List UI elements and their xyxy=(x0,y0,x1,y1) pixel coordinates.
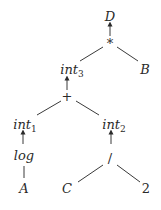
edge-mul-B xyxy=(117,47,138,61)
node-int3-subscript: 3 xyxy=(78,69,84,79)
node-multiply: * xyxy=(107,36,114,51)
node-D: D xyxy=(104,9,116,24)
node-int1-label: int xyxy=(13,117,32,132)
node-int2-label: int xyxy=(102,117,121,132)
node-B: B xyxy=(139,62,150,77)
node-two: 2 xyxy=(142,181,150,196)
expression-tree-diagram: D * int3 B + int1 int2 log / A C 2 xyxy=(0,0,161,210)
edge-plus-int2 xyxy=(76,101,99,115)
edge-div-two xyxy=(117,165,140,182)
node-int3: int3 xyxy=(60,62,84,79)
node-int1: int1 xyxy=(13,117,37,134)
nodes: D * int3 B + int1 int2 log / A C 2 xyxy=(13,9,150,196)
node-int3-label: int xyxy=(60,62,79,77)
node-C: C xyxy=(62,181,72,196)
node-plus: + xyxy=(62,89,73,104)
node-A: A xyxy=(18,181,28,196)
node-int2-subscript: 2 xyxy=(120,124,126,134)
node-int2: int2 xyxy=(102,117,126,134)
edge-plus-int1 xyxy=(37,101,61,115)
edge-div-C xyxy=(78,165,103,182)
edge-mul-int3 xyxy=(80,47,103,61)
node-int1-subscript: 1 xyxy=(31,124,37,134)
node-log: log xyxy=(14,148,34,163)
edges xyxy=(23,24,140,182)
node-divide: / xyxy=(108,151,113,166)
